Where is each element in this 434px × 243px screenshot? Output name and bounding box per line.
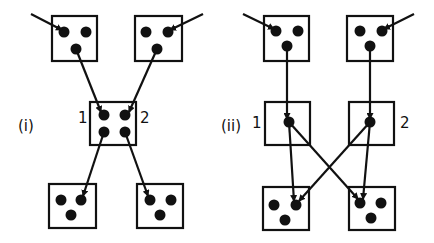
panel-2: (ii)12 — [221, 14, 414, 230]
node-box-bottom-left — [49, 184, 96, 228]
dot — [293, 26, 304, 37]
dot — [66, 210, 77, 221]
box-outline — [49, 184, 96, 228]
node-box-middle — [90, 102, 136, 145]
arrow-line — [289, 122, 294, 201]
dot — [355, 26, 366, 37]
node-number-label: 1 — [78, 109, 88, 127]
dot — [166, 195, 177, 206]
dot — [56, 195, 67, 206]
dot — [366, 213, 377, 224]
network-diagram: (i)12(ii)12 — [0, 0, 434, 243]
arrow-line — [129, 49, 157, 112]
dot — [355, 198, 366, 209]
dot — [280, 215, 291, 226]
arrow-line — [83, 132, 104, 196]
box-outline — [90, 102, 136, 145]
dot — [145, 195, 156, 206]
node-box-top-right — [135, 16, 182, 61]
dot — [141, 27, 152, 38]
node-box-bottom-right — [137, 184, 183, 228]
node-number-label: 1 — [252, 114, 262, 132]
panel-label: (ii) — [221, 117, 241, 135]
dot — [376, 198, 387, 209]
dot — [81, 27, 92, 38]
node-box-bottom-right — [349, 187, 395, 230]
node-number-label: 2 — [140, 109, 150, 127]
node-box-top-left — [52, 16, 97, 61]
diagram-canvas: (i)12(ii)12 — [0, 0, 434, 243]
panel-1: (i)12 — [18, 14, 203, 228]
node-number-label: 2 — [400, 114, 410, 132]
box-outline — [137, 184, 183, 228]
dot — [76, 195, 87, 206]
dot — [155, 210, 166, 221]
box-outline — [349, 187, 395, 230]
node-box-bottom-left — [263, 187, 309, 230]
dot — [269, 200, 280, 211]
panel-label: (i) — [18, 117, 34, 135]
